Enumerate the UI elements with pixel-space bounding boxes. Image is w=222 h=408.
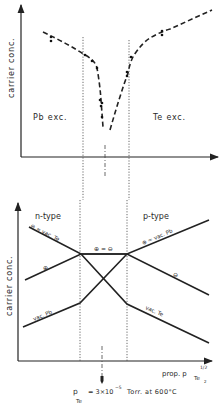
annotation-value: = 3×10 — [88, 388, 113, 396]
annotation-sub: Te — [75, 398, 82, 404]
line-holes — [25, 220, 209, 280]
label-vac-pb: vac. Pb — [32, 309, 53, 322]
x-axis-label: prop. p — [162, 370, 187, 378]
label-vac-te: vac. Te — [145, 304, 165, 317]
x-axis-label-sub: Te — [193, 375, 200, 381]
label-intrinsic: ⊕ = ⊖ — [94, 245, 113, 252]
stoich-arrow-icon — [101, 376, 104, 384]
region-p-type: p-type — [143, 212, 169, 221]
line-vac-te — [81, 254, 209, 343]
top-curve-right — [110, 10, 212, 130]
region-n-type: n-type — [35, 212, 61, 221]
annotation-p: p — [73, 387, 78, 396]
bottom-plot: carrier conc. n-type p-type ⊖ ≈ vac. Te … — [5, 200, 212, 384]
label-electrons-vac-te: ⊖ ≈ vac. Te — [30, 223, 61, 243]
top-plot: carrier conc. Pb exc. Te exc. — [7, 5, 218, 200]
top-ylabel: carrier conc. — [7, 38, 16, 98]
annotation-exp: −5 — [115, 385, 122, 390]
annotation-rest: Torr. at 600°C — [126, 388, 177, 396]
x-axis-label-sup: 1/2 — [200, 365, 207, 370]
label-holes-left: ⊕ — [43, 264, 48, 271]
top-data-points — [50, 30, 164, 119]
top-region-left: Pb exc. — [33, 113, 67, 122]
top-region-right: Te exc. — [152, 113, 186, 122]
bottom-ylabel: carrier conc. — [5, 256, 14, 316]
x-axis-label-main: prop. p — [162, 370, 187, 378]
annotation: p Te = 3×10 −5 Torr. at 600°C — [73, 385, 177, 404]
x-axis-label-sub2: 2 — [204, 379, 207, 384]
diagram-canvas: carrier conc. Pb exc. Te exc. carrier co… — [0, 0, 222, 408]
label-electrons-right: ⊖ — [173, 271, 178, 278]
